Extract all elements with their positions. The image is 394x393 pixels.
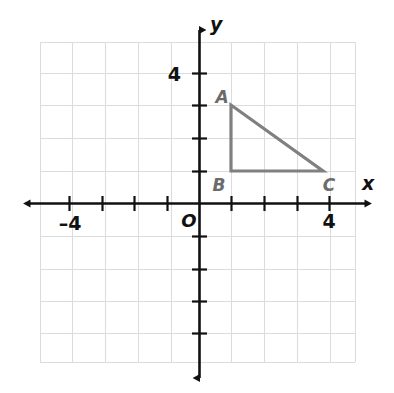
x-tick-label-minus-4: –4 — [59, 212, 82, 234]
vertex-label-c: C — [323, 175, 336, 195]
origin-label: O — [181, 210, 196, 231]
x-tick-label-4: 4 — [322, 210, 335, 232]
x-axis-label: x — [361, 172, 375, 194]
coordinate-plane: y x 4 4 –4 O A B C — [0, 0, 394, 393]
vertex-label-b: B — [213, 175, 226, 195]
y-axis-label: y — [210, 13, 224, 35]
figure-root: y x 4 4 –4 O A B C — [0, 0, 394, 393]
vertex-label-a: A — [213, 87, 228, 107]
y-tick-label-4: 4 — [168, 63, 181, 85]
